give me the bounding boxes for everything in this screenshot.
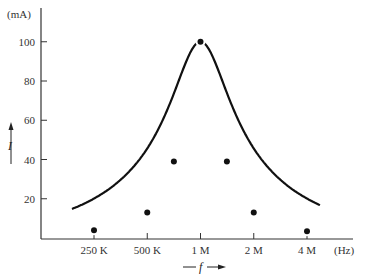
y-tick-label: 20 [24, 193, 36, 205]
resonance-chart: 20406080100 250 K500 K1 M2 M4 M (mA) (Hz… [0, 0, 367, 277]
y-axis-label: I [7, 122, 14, 164]
data-points [89, 37, 312, 236]
y-unit-label: (mA) [7, 8, 31, 21]
x-tick-label: 500 K [134, 244, 161, 256]
data-point [171, 158, 177, 164]
y-axis-variable: I [7, 139, 13, 153]
y-tick-label: 80 [24, 75, 36, 87]
x-tick-label: 2 M [245, 244, 263, 256]
y-tick-label: 100 [19, 36, 36, 48]
data-point [251, 209, 257, 215]
x-tick-label: 4 M [298, 244, 316, 256]
data-point [91, 227, 97, 233]
x-axis-variable: f [199, 260, 204, 274]
x-ticks: 250 K500 K1 M2 M4 M [80, 233, 316, 256]
x-unit-label: (Hz) [334, 244, 354, 257]
x-tick-label: 250 K [80, 244, 107, 256]
y-tick-label: 40 [24, 154, 36, 166]
data-point [144, 209, 150, 215]
data-point [224, 158, 230, 164]
y-ticks: 20406080100 [19, 36, 48, 205]
resonance-curve [72, 42, 320, 209]
x-tick-label: 1 M [191, 244, 209, 256]
x-axis-label: f [183, 260, 226, 274]
data-point [304, 228, 310, 234]
data-point [198, 39, 204, 45]
y-tick-label: 60 [24, 114, 36, 126]
